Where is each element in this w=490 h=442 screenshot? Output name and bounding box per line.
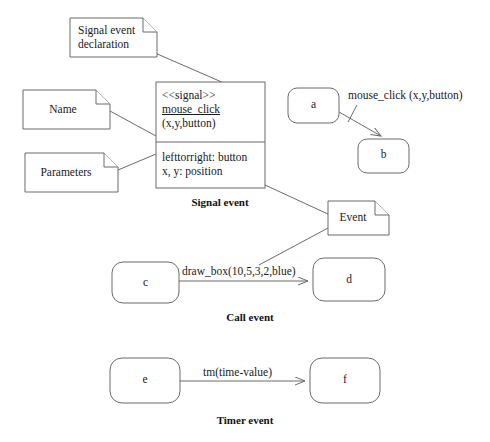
caption-signal-event: Signal event <box>165 196 275 208</box>
leader-declaration-to-class <box>155 53 224 83</box>
edge-label-mouse-click: mouse_click (x,y,button) <box>348 89 463 101</box>
node-a-label: a <box>288 98 339 110</box>
class-stereotype: <<signal>> <box>162 88 262 102</box>
note-event-label: Event <box>328 210 378 224</box>
note-parameters-label: Parameters <box>25 165 107 179</box>
node-f-label: f <box>310 373 380 385</box>
edge-label-tm: tm(time-value) <box>203 366 272 378</box>
uml-event-diagram: Signal event declaration Name Parameters… <box>0 0 490 442</box>
node-e-label: e <box>110 373 180 385</box>
node-c-label: c <box>112 276 179 288</box>
caption-call-event: Call event <box>195 311 305 323</box>
note-name-label: Name <box>23 102 103 116</box>
edge-a-to-b <box>339 112 381 136</box>
class-attribute-1: x, y: position <box>162 164 267 178</box>
node-b-label: b <box>358 148 409 160</box>
class-name: mouse_click <box>162 102 262 116</box>
class-attribute-0: lefttorright: button <box>162 150 267 164</box>
class-signature: (x,y,button) <box>162 116 262 130</box>
node-d-label: d <box>313 273 385 285</box>
note-signal-event-declaration-label: Signal event declaration <box>78 23 150 51</box>
leader-name-to-class <box>110 111 156 136</box>
edge-label-draw-box: draw_box(10,5,3,2,blue) <box>182 265 296 277</box>
caption-timer-event: Timer event <box>190 414 300 426</box>
leader-parameters-to-class <box>118 154 156 170</box>
